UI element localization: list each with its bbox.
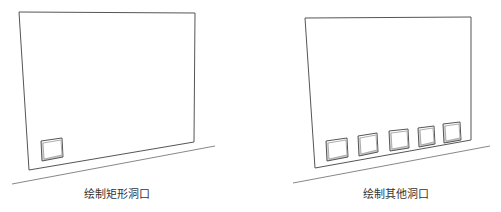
wall-panel-left [12,12,215,184]
wall-panel-right [293,17,490,183]
caption-other-openings: 绘制其他洞口 [363,188,429,202]
caption-rectangular-opening: 绘制矩形洞口 [84,188,150,202]
diagram-canvas [0,0,501,212]
